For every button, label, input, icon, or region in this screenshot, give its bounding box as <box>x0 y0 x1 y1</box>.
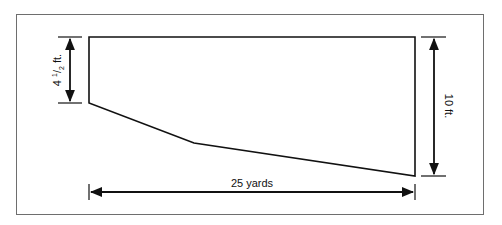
left-depth-numerator: 1 <box>51 73 58 77</box>
length-label: 25 yards <box>231 177 273 189</box>
pool-outline <box>89 37 415 176</box>
left-depth-denominator: 2 <box>58 66 65 70</box>
left-depth-unit: ft. <box>51 54 63 63</box>
pool-diagram <box>0 0 502 225</box>
left-depth-whole: 4 <box>51 80 63 86</box>
right-depth-label: 10 ft. <box>443 94 455 118</box>
left-depth-label: 4 1/2 ft. <box>51 54 66 86</box>
